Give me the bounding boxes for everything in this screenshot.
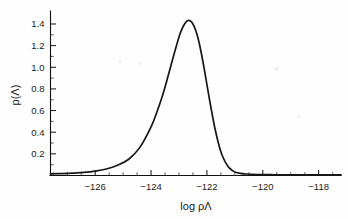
y-tick-label: 1.2: [31, 40, 44, 51]
x-axis-title: log ρΛ: [180, 200, 212, 212]
y-tick-label: 0.6: [31, 105, 44, 116]
x-tick-label: −122: [196, 181, 217, 192]
y-tick-label: 1.4: [31, 18, 44, 29]
y-tick-label: 1.0: [31, 62, 44, 73]
x-axis-tick-labels: −126−124−122−120−118: [84, 181, 329, 192]
y-tick-label: 0.2: [31, 148, 44, 159]
x-tick-label: −124: [140, 181, 161, 192]
y-tick-label: 0.4: [31, 127, 44, 138]
y-tick-label: 0.8: [31, 83, 44, 94]
y-axis-tick-labels: 0.20.40.60.81.01.21.4: [31, 18, 44, 159]
x-tick-label: −126: [84, 181, 105, 192]
y-axis-title: p(Λ): [9, 85, 21, 106]
distribution-plot: −126−124−122−120−118 0.20.40.60.81.01.21…: [0, 0, 348, 219]
figure-container: −126−124−122−120−118 0.20.40.60.81.01.21…: [0, 0, 348, 219]
y-axis-tick-group: [51, 24, 57, 165]
x-tick-label: −120: [252, 181, 273, 192]
probability-density-curve: [51, 20, 342, 175]
x-tick-label: −118: [308, 181, 329, 192]
